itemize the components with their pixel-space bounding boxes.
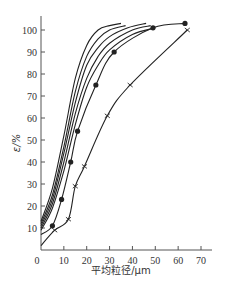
y-tick-label: 90 <box>27 47 37 58</box>
data-point-cross <box>52 228 57 232</box>
x-axis-title: 平均粒径/μm <box>91 264 150 276</box>
x-tick-label: 50 <box>150 255 160 266</box>
x-tick-label: 10 <box>59 255 69 266</box>
data-point-cross <box>185 28 190 32</box>
y-tick-label: 60 <box>27 113 37 124</box>
y-axis-title: ε/% <box>11 134 22 152</box>
data-point-dot <box>68 159 73 164</box>
x-tick-label: 0 <box>35 255 40 266</box>
y-tick-label: 80 <box>27 69 37 80</box>
data-point-dot <box>112 49 117 54</box>
data-point-cross <box>105 114 110 118</box>
y-tick-label: 50 <box>27 135 37 146</box>
x-tick-label: 60 <box>173 255 183 266</box>
data-point-cross <box>128 83 133 87</box>
x-tick-label: 70 <box>196 255 206 266</box>
x-tick-label: 20 <box>82 255 92 266</box>
series-curve-4 <box>41 26 151 228</box>
series-line <box>41 28 155 230</box>
data-point-dot <box>59 197 64 202</box>
data-point-dot <box>75 129 80 134</box>
y-tick-label: 100 <box>22 25 37 36</box>
y-tick-label: 20 <box>27 201 37 212</box>
chart: 102030405060708090100010203040506070 平均粒… <box>0 0 227 290</box>
data-point-dot <box>50 223 55 228</box>
y-tick-label: 10 <box>27 223 37 234</box>
series-dot-series <box>41 21 188 235</box>
series-line <box>41 26 151 228</box>
data-point-dot <box>93 82 98 87</box>
series-line <box>41 23 185 234</box>
data-point-cross <box>82 164 87 168</box>
y-tick-label: 30 <box>27 179 37 190</box>
y-tick-label: 70 <box>27 91 37 102</box>
data-point-dot <box>182 21 187 26</box>
y-tick-label: 40 <box>27 157 37 168</box>
plot-area <box>41 21 190 246</box>
data-point-dot <box>150 25 155 30</box>
series-curve-5 <box>41 28 155 230</box>
